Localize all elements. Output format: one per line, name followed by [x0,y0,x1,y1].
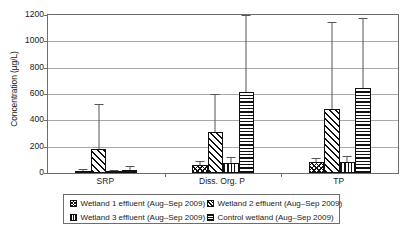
error-bar [324,22,340,109]
x-category-label: TP [280,176,397,186]
bar-slot [75,15,91,173]
bar[interactable] [309,162,325,173]
error-bar-cap [125,166,134,167]
bar-slot [208,15,224,173]
legend-swatch-icon [70,214,77,221]
bar-slot [324,15,340,173]
y-tickmark [44,41,48,42]
bar-slot [223,15,239,173]
legend-swatch-icon [70,200,77,207]
legend-label: Wetland 3 effluent (Aug–Sep 2009) [81,213,206,222]
bar-slot [340,15,356,173]
legend-item[interactable]: Wetland 1 effluent (Aug–Sep 2009) [70,199,205,208]
bar-slot [309,15,325,173]
legend-label: Wetland 1 effluent (Aug–Sep 2009) [81,199,206,208]
error-bar [239,15,255,92]
error-bar-stem [362,18,363,88]
error-bar [208,94,224,132]
bar[interactable] [340,162,356,173]
bar-slot [239,15,255,173]
legend-item[interactable]: Control wetland (Aug–Sep 2009) [207,213,334,222]
bar-chart: Concentration (µg/L) 0200400600800100012… [0,0,403,234]
error-bar-cap [110,170,119,171]
bar-group [75,15,137,173]
error-bar-cap [226,157,235,158]
legend-label: Control wetland (Aug–Sep 2009) [218,213,334,222]
legend-swatch-icon [207,214,214,221]
legend-item[interactable]: Wetland 3 effluent (Aug–Sep 2009) [70,213,205,222]
legend-swatch-icon [207,200,214,207]
bar-slot [192,15,208,173]
y-tickmark [44,173,48,174]
legend-row: Wetland 3 effluent (Aug–Sep 2009)Control… [64,211,339,224]
y-axis-tick-labels: 020040060080010001200 [14,0,44,180]
bar[interactable] [239,92,255,173]
error-bar [192,161,208,165]
x-category-label: Diss. Org. P [164,176,281,186]
error-bar-cap [312,158,321,159]
error-bar [91,104,107,149]
bar-slot [355,15,371,173]
error-bar [106,170,122,171]
y-tick-label: 800 [14,63,44,71]
x-category-label: SRP [47,176,164,186]
error-bar-cap [242,15,251,16]
bar[interactable] [355,88,371,173]
bar-group [309,15,371,173]
bar[interactable] [122,170,138,173]
bar[interactable] [106,171,122,173]
error-bar [355,18,371,88]
error-bar-stem [98,104,99,149]
error-bar [309,158,325,162]
y-tick-label: 1200 [14,10,44,18]
bar[interactable] [192,165,208,173]
y-tick-label: 600 [14,89,44,97]
bar-slot [91,15,107,173]
error-bar-cap [79,169,88,170]
y-tickmark [44,15,48,16]
error-bar-cap [327,22,336,23]
bar-group [192,15,254,173]
error-bar-cap [94,104,103,105]
error-bar [223,157,239,163]
y-tickmark [44,68,48,69]
legend-item[interactable]: Wetland 2 effluent (Aug–Sep 2009) [207,199,342,208]
error-bar-cap [358,18,367,19]
plot-area [47,14,399,174]
legend-row: Wetland 1 effluent (Aug–Sep 2009)Wetland… [64,197,339,210]
x-axis-category-labels: SRPDiss. Org. PTP [47,176,397,190]
chart-legend: Wetland 1 effluent (Aug–Sep 2009)Wetland… [63,194,340,224]
y-tick-label: 0 [14,168,44,176]
bar[interactable] [223,163,239,173]
y-tick-label: 400 [14,115,44,123]
error-bar-stem [215,94,216,132]
error-bar-cap [343,156,352,157]
bar[interactable] [208,132,224,173]
error-bar-stem [331,22,332,109]
y-tick-label: 200 [14,142,44,150]
error-bar [75,169,91,171]
error-bar-cap [195,161,204,162]
y-tick-label: 1000 [14,36,44,44]
y-tickmark [44,120,48,121]
error-bar [122,166,138,170]
error-bar-cap [211,94,220,95]
error-bar-stem [246,15,247,92]
y-tickmark [44,94,48,95]
y-tickmark [44,147,48,148]
bar-slot [106,15,122,173]
bar[interactable] [91,149,107,173]
legend-label: Wetland 2 effluent (Aug–Sep 2009) [218,199,343,208]
error-bar [340,156,356,162]
bar[interactable] [75,171,91,173]
bar-slot [122,15,138,173]
bar[interactable] [324,109,340,173]
